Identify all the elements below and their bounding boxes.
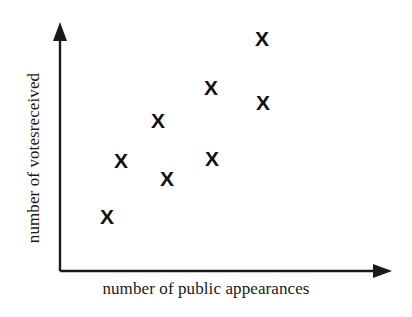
data-point-marker: X <box>100 205 114 228</box>
data-point-marker: X <box>256 91 270 114</box>
data-point-marker: X <box>151 109 165 132</box>
y-axis-arrowhead-icon <box>53 22 67 41</box>
data-point-marker: X <box>255 27 269 50</box>
data-point-marker: X <box>204 76 218 99</box>
data-point-marker: X <box>160 167 174 190</box>
data-point-marker: X <box>114 149 128 172</box>
x-axis-label: number of public appearances <box>0 279 412 299</box>
plot-area: X X X X X X X X <box>0 0 412 317</box>
x-axis-arrowhead-icon <box>373 264 392 278</box>
data-point-marker: X <box>205 147 219 170</box>
y-axis-label: number of votesreceived <box>24 48 44 268</box>
scatter-plot-figure: X X X X X X X X number of public appeara… <box>0 0 412 317</box>
